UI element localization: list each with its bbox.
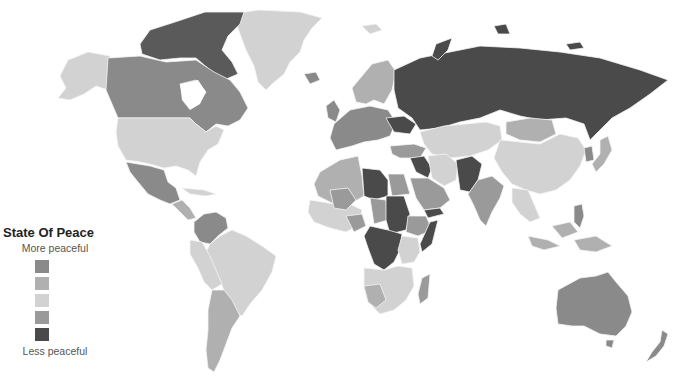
legend-swatches	[0, 260, 97, 341]
region-turkey[interactable]	[390, 144, 426, 158]
region-libya[interactable]	[362, 168, 388, 200]
legend-top-label: More peaceful	[0, 242, 110, 254]
region-australia[interactable]	[556, 272, 632, 336]
region-scandinavia[interactable]	[352, 60, 396, 104]
region-chad[interactable]	[370, 198, 388, 224]
region-yemen[interactable]	[424, 208, 444, 218]
legend-swatch-3	[35, 294, 49, 307]
region-east-africa[interactable]	[398, 236, 420, 264]
legend-swatch-2	[35, 277, 49, 290]
legend: State Of Peace More peaceful Less peacef…	[0, 225, 110, 357]
region-philippines[interactable]	[574, 204, 584, 228]
region-arctic-islands[interactable]	[494, 24, 584, 50]
region-drc-car[interactable]	[364, 226, 402, 270]
legend-title: State Of Peace	[0, 225, 110, 240]
region-japan[interactable]	[592, 136, 612, 172]
region-svalbard[interactable]	[362, 24, 382, 34]
region-tasmania[interactable]	[606, 340, 614, 348]
region-korea[interactable]	[584, 146, 594, 162]
region-mongolia[interactable]	[506, 118, 556, 142]
region-madagascar[interactable]	[418, 274, 430, 304]
region-iceland[interactable]	[304, 72, 320, 84]
region-uk[interactable]	[326, 100, 340, 122]
region-indonesia[interactable]	[528, 222, 612, 252]
region-europe[interactable]	[330, 106, 396, 150]
region-caribbean[interactable]	[182, 188, 216, 196]
legend-swatch-1	[35, 260, 49, 273]
region-new-zealand[interactable]	[646, 330, 668, 362]
region-mexico[interactable]	[126, 162, 180, 204]
region-china[interactable]	[494, 134, 586, 194]
legend-swatch-4	[35, 311, 49, 324]
region-egypt[interactable]	[388, 174, 410, 196]
region-alaska[interactable]	[58, 52, 110, 100]
legend-bottom-label: Less peaceful	[0, 345, 110, 357]
legend-swatch-5	[35, 328, 49, 341]
region-central-america[interactable]	[172, 200, 196, 220]
